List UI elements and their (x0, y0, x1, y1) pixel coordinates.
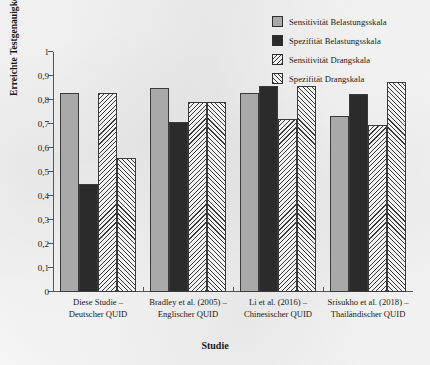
y-axis-tick-label: 0,2 (38, 239, 49, 249)
bar-chart: Sensitivität BelastungsskalaSpezifität B… (0, 0, 430, 365)
legend-label: Spezifität Belastungsskala (289, 36, 381, 46)
bar-group (143, 52, 233, 292)
bar (259, 86, 278, 292)
category-separator-tick (323, 287, 324, 292)
bar (278, 119, 297, 292)
y-axis-tick-label: 1 (45, 47, 50, 57)
x-axis-title: Studie (0, 340, 430, 351)
bar (330, 116, 349, 292)
y-axis-tick-label: 0,6 (38, 143, 49, 153)
legend-swatch-icon (272, 35, 283, 46)
bar (240, 93, 259, 292)
bar (387, 82, 406, 292)
y-axis-tick-label: 0,3 (38, 215, 49, 225)
bar-group (233, 52, 323, 292)
bar (117, 158, 136, 292)
bar (60, 93, 79, 292)
bar (297, 86, 316, 292)
y-axis-tick-label: 0,5 (38, 167, 49, 177)
bar (98, 93, 117, 292)
bar (207, 102, 226, 292)
legend-swatch-icon (272, 16, 283, 27)
bar-group (53, 52, 143, 292)
bar (368, 125, 387, 292)
bar-group (323, 52, 413, 292)
legend-label: Sensitivität Belastungsskala (289, 17, 387, 27)
bar (150, 88, 169, 292)
y-axis-title: Erreichte Testgenauigkeit (8, 0, 19, 96)
plot-area: 00,10,20,30,40,50,60,70,80,91 (53, 52, 413, 292)
category-label-line: Srisukho et al. (2018) – (315, 297, 421, 309)
y-axis-tick-label: 0,9 (38, 71, 49, 81)
y-axis-tick-label: 0,8 (38, 95, 49, 105)
bar (188, 102, 207, 292)
category-label-line: Thailändischer QUID (315, 309, 421, 321)
bar (169, 122, 188, 292)
bar (79, 184, 98, 292)
category-separator-tick (233, 287, 234, 292)
legend-item: Spezifität Belastungsskala (272, 32, 428, 49)
category-separator-tick (143, 287, 144, 292)
y-axis-tick-label: 0,4 (38, 191, 49, 201)
y-axis-tick-label: 0,7 (38, 119, 49, 129)
bar (349, 94, 368, 292)
y-axis-tick-label: 0 (45, 287, 50, 297)
legend-item: Sensitivität Belastungsskala (272, 13, 428, 30)
y-axis-tick-label: 0,1 (38, 263, 49, 273)
category-label: Srisukho et al. (2018) –Thailändischer Q… (315, 297, 421, 320)
